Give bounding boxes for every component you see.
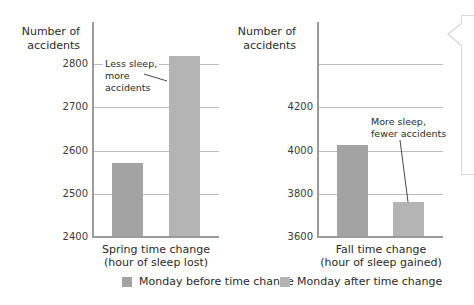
right-ylabel-line1: Number of — [226, 25, 296, 39]
tick-label: 2800 — [48, 58, 88, 70]
bar-fall-before — [337, 145, 368, 237]
tick-label: 2500 — [48, 188, 88, 200]
bar-spring-after — [169, 56, 200, 237]
right-y-axis — [317, 22, 319, 238]
right-y-axis-label: Number of accidents — [226, 25, 296, 53]
bar-fall-after — [393, 202, 424, 237]
gridline-4200 — [318, 107, 443, 108]
bar-spring-before — [112, 163, 143, 237]
left-ylabel-line2: accidents — [0, 39, 80, 53]
legend-label-after: Monday after time change — [297, 275, 442, 288]
annotation-line: More sleep, — [371, 116, 446, 128]
gridline-2600 — [93, 151, 219, 152]
xlabel-line: (hour of sleep lost) — [86, 256, 226, 269]
tick-label: 3800 — [273, 188, 313, 200]
left-y-axis — [92, 22, 94, 238]
tick-label: 2400 — [48, 231, 88, 243]
right-ylabel-line2: accidents — [226, 39, 296, 53]
annotation-pointer-line — [140, 70, 170, 86]
tick-label: 4200 — [273, 101, 313, 113]
legend-swatch-before — [122, 277, 132, 287]
left-y-axis-label: Number of accidents — [0, 25, 80, 53]
callout-pointer — [446, 22, 464, 48]
legend-item-before: Monday before time change — [122, 275, 294, 288]
annotation-pointer-line — [398, 139, 418, 204]
legend-label-before: Monday before time change — [139, 275, 294, 288]
tick-label: 3600 — [273, 231, 313, 243]
xlabel-line: Fall time change — [311, 243, 451, 256]
tick-label: 2600 — [48, 145, 88, 157]
legend-swatch-after — [280, 277, 290, 287]
gridline-2700 — [93, 107, 219, 108]
tick-label: 4000 — [273, 145, 313, 157]
gridline-4400 — [318, 64, 443, 65]
right-x-axis-label: Fall time change (hour of sleep gained) — [311, 243, 451, 269]
xlabel-line: (hour of sleep gained) — [311, 256, 451, 269]
right-x-axis — [317, 236, 443, 238]
xlabel-line: Spring time change — [86, 243, 226, 256]
legend-item-after: Monday after time change — [280, 275, 442, 288]
left-x-axis-label: Spring time change (hour of sleep lost) — [86, 243, 226, 269]
left-ylabel-line1: Number of — [0, 25, 80, 39]
annotation-line: Less sleep, — [105, 58, 157, 70]
tick-label: 2700 — [48, 101, 88, 113]
left-x-axis — [92, 236, 219, 238]
annotation-more-sleep: More sleep, fewer accidents — [369, 116, 448, 140]
